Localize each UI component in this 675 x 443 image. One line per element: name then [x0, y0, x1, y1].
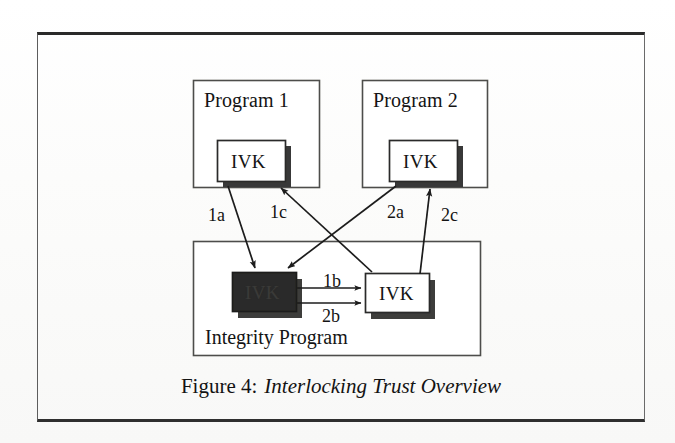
- figure-caption: Figure 4:Interlocking Trust Overview: [37, 374, 645, 399]
- program2-title: Program 2: [373, 90, 458, 110]
- program2-ivk-label: IVK: [403, 152, 438, 171]
- caption-title: Interlocking Trust Overview: [257, 374, 501, 398]
- program1-ivk-label: IVK: [231, 152, 266, 171]
- integrity-ivk-dark-label: IVK: [245, 283, 280, 302]
- caption-number: Figure 4:: [181, 374, 257, 398]
- integrity-program-title: Integrity Program: [205, 327, 348, 347]
- edge-label-1b: 1b: [323, 272, 341, 290]
- integrity-ivk-light-label: IVK: [379, 284, 414, 303]
- edge-label-2a: 2a: [387, 203, 404, 221]
- program1-title: Program 1: [204, 90, 289, 110]
- edge-label-2b: 2b: [322, 307, 340, 325]
- edge-label-1a: 1a: [208, 206, 225, 224]
- edge-label-2c: 2c: [441, 206, 458, 224]
- edge-label-1c: 1c: [270, 203, 287, 221]
- figure-page: Program 1 Program 2 IVK IVK IVK IVK Inte…: [0, 0, 675, 443]
